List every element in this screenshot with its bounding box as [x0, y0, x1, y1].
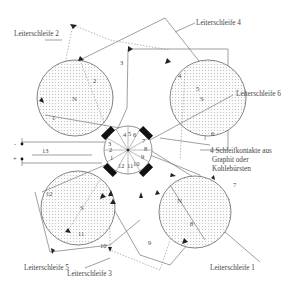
wire-num-5: 5: [196, 85, 199, 92]
arrow-icon: [139, 192, 143, 198]
pole-label-bottom-left: S: [80, 204, 84, 212]
pole-label-top-left: N: [72, 95, 77, 103]
terminal-minus-label: -: [14, 140, 16, 147]
arrow-icon: [211, 175, 215, 180]
seg-num-8: 8: [144, 145, 147, 152]
label-loop-3-leader: [85, 258, 110, 268]
brush-note-line2: Graphit oder: [212, 156, 249, 164]
wire-num-11: 11: [78, 230, 84, 237]
label-loop-2: Leiterschleife 2: [14, 30, 59, 38]
seg-num-10: 10: [133, 160, 140, 167]
wire-num-1: 1: [52, 114, 55, 121]
arrow-icon: [51, 248, 55, 254]
label-loop-5: Leiterschleife 5: [24, 264, 69, 272]
arrow-icon: [108, 247, 112, 252]
brush-note-line3: Kohlebürsten: [212, 165, 251, 173]
label-loop-3: Leiterschleife 3: [67, 270, 112, 278]
seg-num-1: 1: [110, 154, 113, 161]
loop-1-leader: [225, 232, 260, 262]
seg-num-2: 2: [109, 146, 112, 153]
pole-circle-bottom-right: [159, 176, 231, 248]
brush-note-leader: [160, 138, 210, 145]
wire-num-2: 2: [93, 77, 96, 84]
arrow-icon: [170, 173, 176, 177]
pole-circle-top-right: [170, 60, 246, 136]
commutator-hub: [127, 149, 130, 152]
wire-num-7: 7: [233, 181, 237, 188]
arrow-icon: [165, 58, 171, 64]
label-loop-4-leader: [175, 23, 195, 32]
pole-label-top-right: S: [200, 95, 204, 103]
terminal-minus-dot: [21, 143, 24, 146]
pole-label-bottom-right: N: [177, 197, 182, 205]
seg-num-5: 5: [128, 130, 131, 137]
wire-num-8: 8: [190, 220, 193, 227]
terminal-plus-label: +: [13, 155, 17, 162]
label-loop-6: Leiterschleife 6: [236, 90, 281, 98]
wire-num-10: 10: [100, 242, 107, 249]
arrow-icon: [128, 46, 133, 52]
wire-num-9: 9: [148, 239, 151, 246]
wire-num-12: 12: [46, 190, 53, 197]
wire-center-right: [150, 155, 200, 175]
wire-num-13: 13: [42, 147, 49, 154]
seg-num-11: 11: [127, 162, 133, 169]
seg-num-9: 9: [141, 153, 144, 160]
generator-diagram: 4 5 6 7 8 9 10 11 12 3 2 1 N S S N 1 2 3…: [0, 0, 297, 290]
seg-num-12: 12: [118, 162, 125, 169]
arrow-icon: [70, 24, 77, 29]
wire-num-3: 3: [120, 59, 123, 66]
label-loop-1: Leiterschleife 1: [210, 264, 255, 272]
label-loop-4: Leiterschleife 4: [196, 19, 241, 27]
terminal-plus-dot: [21, 158, 24, 161]
arrow-icon: [155, 190, 160, 195]
brush-note-line1: 4 Schleifkontakte aus: [210, 147, 272, 155]
